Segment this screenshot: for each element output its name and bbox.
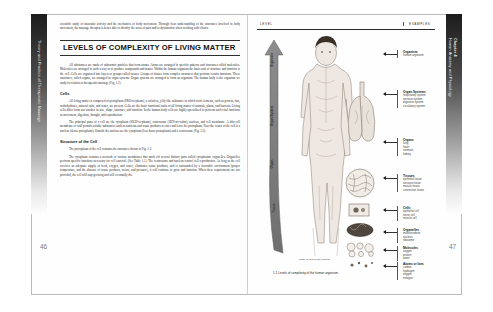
level-example-block: Moleculesoxygenproteinwater (397, 246, 418, 261)
arrow-label-organ-system: Organ System (270, 99, 274, 133)
level-example-block: Tissuesepithelial tissuenervous tissuemu… (397, 174, 424, 192)
level-leader-line (386, 266, 397, 267)
level-example-block: Atoms or Ionscarbonhydrogenoxygennitroge… (397, 262, 424, 280)
left-page-tab: Theory and Practice of Therapeutic Massa… (31, 14, 47, 214)
level-example-item: kidney (403, 153, 414, 157)
level-example-block: Cellsepithelial cellnerve cellmuscle cel… (397, 206, 419, 221)
level-example-item: ribosome (403, 239, 420, 243)
section-heading: LEVELS OF COMPLEXITY OF LIVING MATTER (63, 43, 240, 52)
body-note: Made of cells of an element (299, 258, 330, 261)
complexity-arrow-icon (261, 38, 287, 268)
tissue-illustration (343, 168, 377, 198)
molecules-illustration (345, 242, 379, 258)
level-example-item: muscle cell (403, 217, 419, 221)
cells-paragraph-1: All living matter is composed of protopl… (60, 99, 240, 117)
arrow-label-organism: Organism (270, 47, 274, 73)
level-example-item: connective tissue (403, 189, 424, 193)
level-example-item: human organism (403, 54, 423, 58)
level-leader-line (386, 250, 397, 251)
arrow-label-organ: Organ (270, 151, 274, 177)
level-example-item: circulatory system (403, 105, 426, 109)
left-page-number: 46 (40, 243, 47, 250)
book-spread: Theory and Practice of Therapeutic Massa… (0, 0, 493, 312)
column-header-examples: EXAMPLES (403, 22, 430, 26)
level-example-item: nitrogen (403, 277, 424, 281)
level-example-item: water (403, 257, 418, 261)
subheading-structure-of-the-cell: Structure of the Cell (60, 139, 240, 144)
level-example-block: Organslungheartstomachkidney (397, 138, 414, 156)
left-page-content: scientific study of muscular activity an… (60, 22, 240, 180)
cell-illustration (347, 202, 371, 218)
intro-paragraph: scientific study of muscular activity an… (60, 22, 240, 31)
subheading-cells: Cells (60, 91, 240, 96)
organelle-mitochondrion-illustration (345, 222, 375, 238)
level-example-block: Organismhuman organism (397, 50, 423, 58)
level-example-block: Organellesmitochondrionnucleusribosome (397, 228, 420, 243)
atoms-illustration (347, 260, 377, 270)
structure-paragraph-1: The protoplasm of the cell contains the … (60, 147, 240, 151)
structure-paragraph-2: The cytoplasm contains a network of vari… (60, 155, 240, 177)
body-paragraph-1: All substances are made of subatomic par… (60, 63, 240, 85)
left-tab-label: Theory and Practice of Therapeutic Massa… (37, 40, 41, 122)
level-example-block: Organ Systemsrespiratory systemnervous s… (397, 90, 426, 108)
figure-caption: 1-1 Levels of complexity of the human or… (273, 271, 339, 275)
level-leader-line (386, 54, 397, 55)
level-leader-line (386, 94, 397, 95)
level-leader-line (386, 178, 397, 179)
figure-levels-of-complexity: LEVEL EXAMPLES Organism Organ System Org… (255, 22, 455, 277)
section-heading-bar: LEVELS OF COMPLEXITY OF LIVING MATTER (60, 40, 240, 56)
cells-paragraph-2: The principal parts of a cell are the cy… (60, 120, 240, 133)
level-leader-line (386, 210, 397, 211)
arrow-label-tissue: Tissue (272, 195, 276, 221)
column-header-level: LEVEL (260, 22, 273, 26)
organs-illustration (341, 80, 383, 160)
level-leader-line (386, 232, 397, 233)
level-leader-line (386, 142, 397, 143)
figure-header-rule (257, 29, 435, 30)
